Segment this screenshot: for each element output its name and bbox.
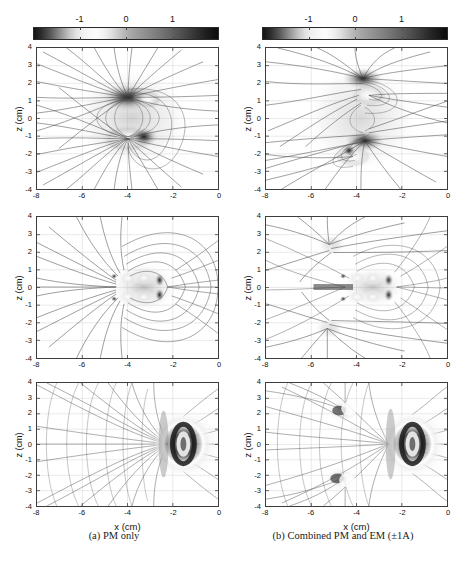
colorbar-b-gradient [262,27,448,40]
ytick: 1 [257,425,261,433]
colorbar-b-tick-plus1: 1 [399,13,404,26]
ytick: 1 [28,425,32,433]
ytick: 2 [257,79,261,87]
ytick: -1 [25,456,32,464]
panel-a-top-axes [36,47,219,190]
ytick: -3 [25,487,32,495]
panel-a-bot-plot [37,383,218,506]
panel-a-bot-axes [36,382,219,507]
ytick: 0 [257,284,261,292]
ytick: -1 [254,301,261,309]
ytick: -2 [254,150,261,158]
xtick: -4 [124,360,131,370]
colorbar-a-tick-zero: 0 [123,13,128,26]
caption-b: (b) Combined PM and EM (±1A) [229,530,457,541]
colorbar-b-ticklabels: -1 0 1 [262,13,448,26]
panel-a-top-plot [37,48,218,189]
colorbar-a: -1 0 1 [33,13,219,41]
panel-b-bot-xticklabels: -8 -6 -4 -2 0 [265,508,448,518]
panel-a-bot-ylabel: z (cm) [14,432,24,457]
xtick: -4 [353,508,360,518]
panel-b-bot-ylabel: z (cm) [243,432,253,457]
xtick: -6 [307,360,314,370]
panel-a-top-ylabel: z (cm) [14,106,24,131]
xtick: -6 [307,191,314,201]
xtick: -6 [307,508,314,518]
colorbar-b-tick-minus1: -1 [304,13,312,26]
ytick: 0 [257,441,261,449]
panel-a-bot: 4 3 2 1 0 -1 -2 -3 -4 -8 -6 -4 -2 0 z (c… [36,382,219,507]
ytick: -2 [254,319,261,327]
panel-b-mid-axes [265,216,448,359]
xtick: -4 [353,191,360,201]
ytick: -1 [254,456,261,464]
ytick: -2 [254,472,261,480]
caption-a: (a) PM only [0,530,228,541]
xtick: -4 [124,191,131,201]
ytick: 3 [257,394,261,402]
panel-b-mid-xticklabels: -8 -6 -4 -2 0 [265,360,448,370]
xtick: -2 [399,191,406,201]
ytick: 3 [28,61,32,69]
xtick: -6 [78,508,85,518]
panel-b-mid-ylabel: z (cm) [243,275,253,300]
ytick: -1 [25,301,32,309]
ytick: 2 [28,409,32,417]
xtick: -2 [399,360,406,370]
ytick: 0 [257,115,261,123]
colorbar-b: -1 0 1 [262,13,448,41]
ytick: 1 [28,266,32,274]
ytick: -4 [254,186,261,194]
ytick: -4 [25,186,32,194]
panel-a-mid-xticklabels: -8 -6 -4 -2 0 [36,360,219,370]
ytick: 1 [257,97,261,105]
ytick: 3 [257,230,261,238]
xtick: 0 [217,360,221,370]
panel-a-top-xticklabels: -8 -6 -4 -2 0 [36,191,219,201]
panel-b-bot-plot [266,383,447,506]
ytick: -3 [254,487,261,495]
panel-b-top-xticklabels: -8 -6 -4 -2 0 [265,191,448,201]
ytick: 4 [257,212,261,220]
colorbar-a-gradient [33,27,219,40]
xtick: -2 [170,191,177,201]
ytick: 2 [28,79,32,87]
xtick: 0 [217,508,221,518]
figure-column-a: -1 0 1 [0,0,228,575]
xtick: -8 [33,508,40,518]
ytick: -4 [254,355,261,363]
xtick: -2 [170,508,177,518]
xtick: -2 [399,508,406,518]
xtick: 0 [446,508,450,518]
xtick: -6 [78,191,85,201]
panel-b-bot: 4 3 2 1 0 -1 -2 -3 -4 -8 -6 -4 -2 0 z (c… [265,382,448,507]
xtick: 0 [446,360,450,370]
figure-column-b: -1 0 1 [229,0,457,575]
xtick: -8 [33,191,40,201]
ytick: 4 [28,212,32,220]
ytick: -4 [25,355,32,363]
xtick: -8 [262,360,269,370]
ytick: 4 [28,43,32,51]
panel-b-top-ylabel: z (cm) [243,106,253,131]
colorbar-a-tick-minus1: -1 [75,13,83,26]
ytick: 3 [28,394,32,402]
ytick: 2 [257,409,261,417]
panel-b-bot-axes [265,382,448,507]
panel-b-mid-plot [266,217,447,358]
xtick: 0 [217,191,221,201]
panel-a-bot-xticklabels: -8 -6 -4 -2 0 [36,508,219,518]
ytick: 2 [28,248,32,256]
ytick: -2 [25,319,32,327]
panel-b-top-plot [266,48,447,189]
ytick: -1 [254,132,261,140]
ytick: 4 [257,378,261,386]
ytick: -4 [254,503,261,511]
ytick: 1 [257,266,261,274]
panel-a-mid: 4 3 2 1 0 -1 -2 -3 -4 -8 -6 -4 -2 0 z (c… [36,216,219,359]
panel-b-mid: 4 3 2 1 0 -1 -2 -3 -4 -8 -6 -4 -2 0 z (c… [265,216,448,359]
panel-a-mid-plot [37,217,218,358]
xtick: -8 [262,508,269,518]
ytick: 4 [28,378,32,386]
ytick: -3 [25,337,32,345]
